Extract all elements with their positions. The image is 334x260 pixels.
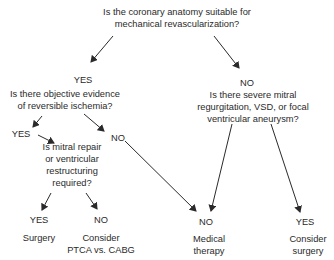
ischemia-question-line2: of reversible ischemia? [17, 100, 112, 113]
severe-yes-label: YES [296, 216, 315, 229]
arrow-root-no [214, 36, 239, 68]
mitral-yes-label: YES [30, 214, 49, 227]
arrow-ischemia-no-to-medical [125, 141, 196, 211]
outcome-surgery: Surgery [23, 232, 56, 245]
arrow-severe-no [211, 124, 232, 211]
arrow-mitral-no [86, 193, 97, 209]
arrow-severe-yes [271, 124, 300, 212]
mitral-question-line1: Is mitral repair [43, 141, 102, 154]
outcome-consider-line2: PTCA vs. CABG [67, 244, 135, 257]
mitral-no-label: NO [94, 214, 108, 227]
outcome-consider-surgery-line2: surgery [292, 245, 323, 258]
root-question-line2: mechanical revascularization? [115, 18, 240, 31]
root-no-label: NO [240, 77, 254, 90]
root-yes-label: YES [74, 74, 93, 87]
severe-question-line1: Is there severe mitral [210, 89, 297, 102]
arrow-ischemia-yes [33, 116, 42, 127]
severe-question-line3: ventricular aneurysm? [207, 113, 298, 126]
ischemia-yes-label: YES [12, 128, 31, 141]
severe-no-label: NO [199, 216, 213, 229]
ischemia-question-line1: Is there objective evidence [10, 88, 120, 101]
arrow-root-yes [91, 36, 113, 62]
root-question-line1: Is the coronary anatomy suitable for [103, 6, 251, 19]
outcome-consider-surgery-line1: Consider [289, 233, 326, 246]
mitral-question-line2: or ventricular [45, 153, 99, 166]
mitral-question-line3: restructuring [46, 165, 98, 178]
ischemia-no-label: NO [111, 132, 125, 145]
severe-question-line2: regurgitation, VSD, or focal [197, 101, 309, 114]
outcome-consider-line1: Consider [82, 232, 119, 245]
arrow-mitral-yes [42, 193, 51, 210]
outcome-medical-line2: therapy [193, 245, 224, 258]
outcome-medical-line1: Medical [193, 233, 225, 246]
arrows-layer [0, 0, 334, 260]
arrow-ischemia-no [84, 114, 104, 131]
mitral-question-line4: required? [52, 177, 91, 190]
